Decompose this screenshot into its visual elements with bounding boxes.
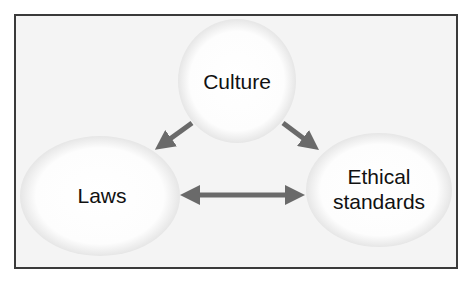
label-laws: Laws xyxy=(52,184,152,208)
arrow-culture-to-ethical xyxy=(283,123,311,144)
label-culture: Culture xyxy=(187,70,287,94)
arrow-culture-to-laws xyxy=(163,123,192,144)
diagram-canvas xyxy=(0,0,474,287)
label-ethical: Ethical xyxy=(319,165,439,189)
label-standards: standards xyxy=(319,190,439,214)
